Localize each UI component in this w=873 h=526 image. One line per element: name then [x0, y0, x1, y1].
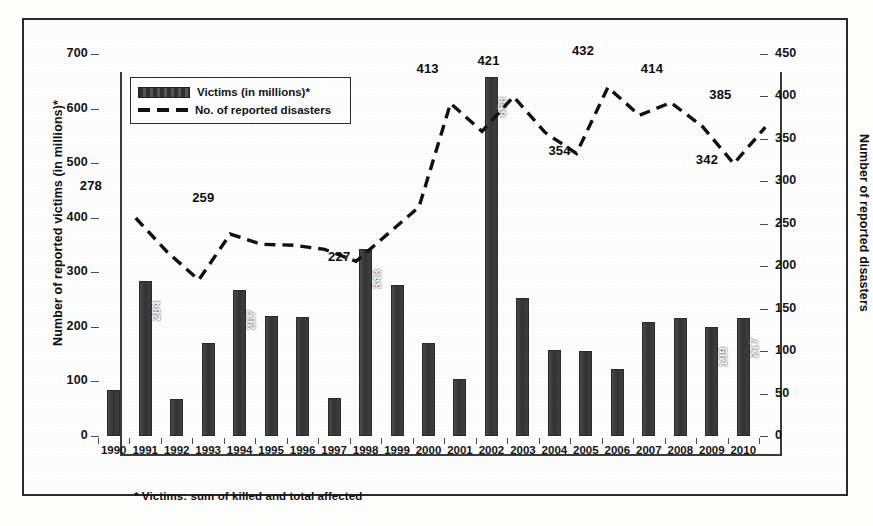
bar	[202, 343, 215, 436]
y-axis-left-tick	[91, 109, 99, 110]
bar	[391, 285, 404, 436]
y-axis-right-tick-label: 300	[775, 173, 819, 187]
y-axis-left-tick	[91, 272, 99, 273]
chart-legend: Victims (in millions)* No. of reported d…	[130, 77, 351, 124]
y-axis-right-tick	[760, 224, 768, 225]
y-axis-left-tick-label: 600	[44, 101, 88, 115]
y-axis-left-tick	[91, 381, 99, 382]
y-axis-left-line	[120, 72, 122, 455]
bar-data-label: 199	[717, 347, 729, 367]
bar	[453, 379, 466, 436]
x-axis-tick-label: 2010	[721, 444, 765, 456]
bar-data-label: 658	[496, 97, 508, 117]
y-axis-left-tick	[91, 327, 99, 328]
bar	[516, 298, 529, 436]
line-data-label: 342	[696, 152, 718, 167]
bar	[548, 350, 561, 436]
y-axis-right-tick-label: 250	[775, 216, 819, 230]
line-data-label: 414	[641, 61, 663, 76]
bar	[674, 318, 687, 436]
y-axis-right-title: Number of reported disasters	[857, 23, 871, 423]
legend-bar-swatch-icon	[138, 87, 190, 98]
y-axis-right-tick	[760, 96, 768, 97]
y-axis-right-tick-label: 50	[775, 386, 819, 400]
line-data-label: 432	[572, 43, 594, 58]
bar	[296, 317, 309, 436]
legend-dashed-line-icon	[138, 106, 188, 115]
y-axis-right-tick-label: 350	[775, 131, 819, 145]
line-data-label: 421	[477, 53, 499, 68]
legend-label-disasters: No. of reported disasters	[195, 104, 331, 116]
y-axis-left-tick-label: 200	[44, 319, 88, 333]
line-data-label: 278	[80, 178, 102, 193]
bar	[328, 398, 341, 436]
bar-data-label: 284	[150, 301, 162, 321]
x-axis-tick	[759, 438, 760, 444]
y-axis-left-tick	[91, 218, 99, 219]
y-axis-right-tick	[760, 394, 768, 395]
y-axis-right-tick	[760, 351, 768, 352]
y-axis-left-tick	[91, 163, 99, 164]
bar-data-label: 217	[748, 337, 760, 357]
y-axis-right-tick	[760, 266, 768, 267]
bar	[422, 343, 435, 436]
bar-data-label: 267	[245, 310, 257, 330]
y-axis-left-tick-label: 400	[44, 210, 88, 224]
y-axis-right-tick	[760, 54, 768, 55]
y-axis-left-tick	[91, 436, 99, 437]
y-axis-right-tick-label: 450	[775, 46, 819, 60]
chart-page: Number of reported victims (in millions)…	[0, 0, 873, 526]
line-data-label: 259	[192, 190, 214, 205]
legend-item-victims: Victims (in millions)*	[138, 83, 343, 101]
line-data-label: 385	[709, 87, 731, 102]
bar-data-label: 343	[371, 269, 383, 289]
y-axis-left-tick-label: 700	[44, 46, 88, 60]
bar	[737, 318, 750, 436]
line-data-label: 227	[328, 249, 350, 264]
y-axis-right-tick-label: 0	[775, 428, 819, 442]
bar	[265, 316, 278, 436]
y-axis-right-tick-label: 400	[775, 88, 819, 102]
legend-label-victims: Victims (in millions)*	[197, 86, 310, 98]
bar	[485, 77, 498, 436]
y-axis-right-tick	[760, 436, 768, 437]
bar	[170, 399, 183, 436]
y-axis-left-tick-label: 100	[44, 373, 88, 387]
legend-item-disasters: No. of reported disasters	[138, 101, 343, 119]
bar	[642, 322, 655, 436]
bar	[107, 390, 120, 436]
y-axis-right-tick	[760, 181, 768, 182]
line-data-label: 354	[548, 143, 570, 158]
y-axis-left-tick-label: 0	[44, 428, 88, 442]
y-axis-right-tick-label: 150	[775, 301, 819, 315]
bar	[611, 369, 624, 436]
bar	[579, 351, 592, 436]
line-data-label: 413	[417, 61, 439, 76]
y-axis-right-tick	[760, 139, 768, 140]
chart-frame: Number of reported victims (in millions)…	[22, 18, 848, 496]
y-axis-right-tick	[760, 309, 768, 310]
y-axis-left-tick	[91, 54, 99, 55]
y-axis-left-tick-label: 300	[44, 264, 88, 278]
chart-footnote: * Victims: sum of killed and total affec…	[134, 490, 362, 502]
bar	[705, 327, 718, 436]
y-axis-left-tick-label: 500	[44, 155, 88, 169]
y-axis-right-tick-label: 200	[775, 258, 819, 272]
y-axis-right-tick-label: 100	[775, 343, 819, 357]
